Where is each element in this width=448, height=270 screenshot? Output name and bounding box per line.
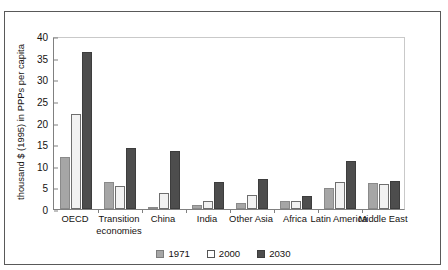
bar-group (192, 38, 225, 209)
bar-2000[interactable] (203, 201, 214, 209)
bar-1971[interactable] (104, 182, 115, 209)
bar-1971[interactable] (368, 183, 379, 209)
bar-2000[interactable] (71, 114, 82, 209)
bar-1971[interactable] (148, 207, 159, 209)
y-tick-label: 10 (37, 163, 54, 173)
figure-title-strip (0, 0, 448, 11)
bar-2030[interactable] (214, 182, 225, 209)
bar-2000[interactable] (379, 184, 390, 209)
bar-2000[interactable] (291, 201, 302, 209)
legend-item[interactable]: 2000 (207, 248, 240, 259)
bar-2030[interactable] (390, 181, 401, 209)
y-axis-title: thousand $ (1995) in PPPs per capita (14, 36, 28, 208)
bar-1971[interactable] (236, 203, 247, 209)
bar-group (324, 38, 357, 209)
legend-swatch-2030-icon (257, 250, 265, 258)
bar-group (236, 38, 269, 209)
bars-layer (54, 38, 404, 209)
bar-1971[interactable] (60, 157, 71, 209)
y-tick-label: 40 (37, 33, 54, 43)
bar-2030[interactable] (82, 52, 93, 209)
y-tick-label: 5 (42, 184, 54, 194)
x-axis-label: Middle East (354, 213, 412, 225)
legend-swatch-1971-icon (156, 250, 164, 258)
legend-item[interactable]: 1971 (156, 248, 189, 259)
bar-1971[interactable] (324, 188, 335, 209)
chart-frame: thousand $ (1995) in PPPs per capita 051… (4, 11, 441, 265)
bar-2030[interactable] (346, 161, 357, 209)
y-tick-label: 15 (37, 141, 54, 151)
bar-group (104, 38, 137, 209)
bar-2030[interactable] (258, 179, 269, 209)
plot-area: 0510152025303540 (53, 37, 405, 210)
chart-legend: 197120002030 (5, 248, 442, 259)
legend-label: 2000 (219, 248, 240, 259)
y-tick-label: 20 (37, 120, 54, 130)
bar-1971[interactable] (192, 205, 203, 209)
bar-2000[interactable] (159, 193, 170, 209)
y-tick-mark (54, 211, 58, 212)
bar-2030[interactable] (170, 151, 181, 209)
bar-2030[interactable] (302, 196, 313, 209)
bar-group (368, 38, 401, 209)
legend-swatch-2000-icon (207, 250, 215, 258)
bar-group (60, 38, 93, 209)
bar-2000[interactable] (115, 186, 126, 209)
legend-label: 1971 (168, 248, 189, 259)
y-tick-label: 30 (37, 76, 54, 86)
bar-group (148, 38, 181, 209)
bar-2000[interactable] (335, 182, 346, 209)
legend-label: 2030 (269, 248, 290, 259)
legend-item[interactable]: 2030 (257, 248, 290, 259)
y-tick-label: 35 (37, 55, 54, 65)
bar-1971[interactable] (280, 201, 291, 209)
bar-group (280, 38, 313, 209)
bar-2030[interactable] (126, 148, 137, 209)
x-axis-labels: OECDTransition economiesChinaIndiaOther … (53, 213, 405, 243)
y-tick-label: 25 (37, 98, 54, 108)
bar-2000[interactable] (247, 195, 258, 209)
